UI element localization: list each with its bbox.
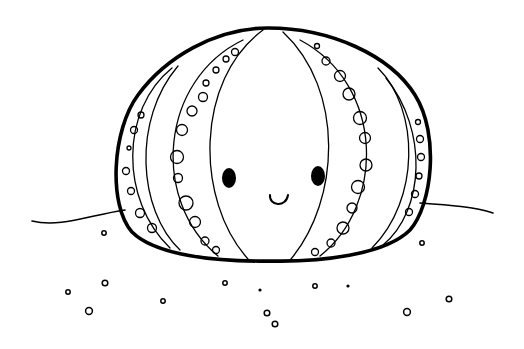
shell-dots-far-left (123, 112, 157, 233)
sand-dot (264, 310, 270, 316)
sand-line-left (32, 210, 125, 223)
sand-dot (161, 299, 165, 303)
sand-dot (272, 321, 278, 327)
sand-dots (66, 231, 452, 327)
sand-dot (102, 231, 106, 235)
sand-dot (86, 308, 93, 315)
sand-dot (404, 309, 411, 316)
sand-dot (446, 296, 452, 302)
sea-urchin-illustration (0, 0, 524, 349)
sea-urchin-shell (116, 28, 430, 261)
sand-line-right (420, 203, 493, 213)
right-eye (311, 166, 325, 186)
sand-dot (223, 281, 227, 285)
face (222, 166, 325, 204)
sand-dot (66, 290, 70, 294)
shell-dots-left (171, 49, 239, 254)
left-eye (222, 168, 236, 188)
sand-dot (420, 241, 424, 245)
sand-dot (346, 284, 349, 287)
sand-dot (102, 280, 108, 286)
sand-dot (258, 288, 261, 291)
shell-segments (133, 30, 416, 259)
sand-dot (313, 284, 317, 288)
smile (270, 195, 288, 204)
